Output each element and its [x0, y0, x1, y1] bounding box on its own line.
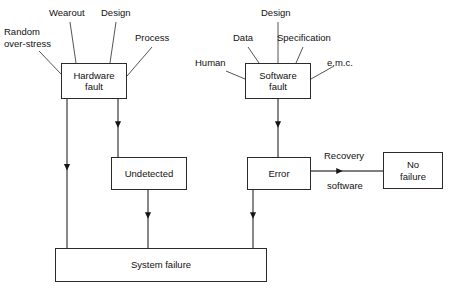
specification-to-software-fault — [296, 47, 303, 63]
input-label-random-over-stress: Random over-stress — [4, 26, 51, 49]
node-hardware-fault[interactable]: Hardware fault — [61, 63, 127, 99]
node-software-fault[interactable]: Software fault — [245, 63, 311, 99]
input-label-emc: e.m.c. — [327, 57, 353, 69]
node-undetected[interactable]: Undetected — [111, 157, 187, 190]
input-label-wearout: Wearout — [49, 7, 85, 19]
diagram-canvas: Hardware fault Software fault Undetected… — [0, 0, 456, 292]
undetected-to-system-failure-arrowhead — [145, 212, 151, 218]
wearout-to-hardware-fault — [70, 22, 76, 63]
software-fault-to-error-arrowhead — [275, 121, 281, 127]
design-to-hardware-fault — [110, 22, 116, 63]
error-to-system-failure-arrowhead — [250, 212, 256, 218]
input-label-human: Human — [195, 57, 226, 69]
edge-label-software: software — [327, 180, 363, 192]
input-label-design-software: Design — [261, 7, 291, 19]
node-system-failure[interactable]: System failure — [55, 248, 267, 282]
human-to-software-fault — [226, 71, 245, 79]
edge-label-recovery: Recovery — [324, 150, 364, 162]
error-to-no-failure-arrowhead — [336, 168, 342, 174]
data-to-software-fault — [248, 47, 259, 63]
hardware-fault-to-system-failure-arrowhead — [64, 164, 70, 170]
process-to-hardware-fault — [127, 47, 152, 76]
random-over-stress-to-hardware-fault — [39, 51, 61, 74]
hardware-fault-to-undetected-arrowhead — [115, 121, 121, 127]
node-error[interactable]: Error — [247, 157, 311, 190]
input-label-specification: Specification — [277, 32, 331, 44]
input-label-data: Data — [233, 32, 253, 44]
input-label-design-hardware: Design — [101, 7, 131, 19]
input-label-process: Process — [135, 32, 169, 44]
node-no-failure[interactable]: No failure — [383, 152, 443, 189]
